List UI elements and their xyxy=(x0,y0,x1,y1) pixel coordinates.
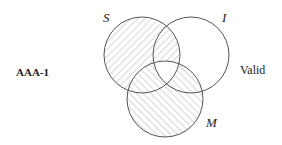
set-label-s: S xyxy=(103,10,110,25)
set-label-m: M xyxy=(205,115,218,130)
set-label-i: I xyxy=(221,10,227,25)
venn-diagram: S I M xyxy=(0,0,282,145)
